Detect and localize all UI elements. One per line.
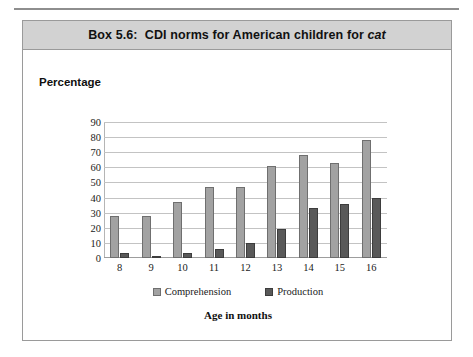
bar-production-15: [340, 204, 349, 258]
y-axis-tick-label: 0: [96, 253, 101, 264]
bar-group: [142, 122, 161, 258]
y-axis-tick-labels: 0102030405060708090: [73, 122, 101, 258]
bar-production-8: [120, 253, 129, 258]
y-axis-tick-label: 50: [91, 177, 102, 188]
bar-comprehension-11: [205, 187, 214, 258]
legend-swatch-icon: [265, 288, 273, 296]
bar-group: [173, 122, 192, 258]
y-axis-tick-label: 40: [91, 192, 102, 203]
x-axis-tick-label: 9: [149, 262, 154, 273]
bar-production-9: [152, 256, 161, 258]
y-axis-title: Percentage: [39, 76, 101, 88]
x-axis-tick-label: 13: [272, 262, 283, 273]
bar-group: [267, 122, 286, 258]
y-axis-tick-label: 90: [91, 117, 102, 128]
bar-production-12: [246, 243, 255, 258]
x-axis-tick-label: 16: [366, 262, 377, 273]
bar-comprehension-14: [299, 155, 308, 258]
chart-legend: ComprehensionProduction: [23, 286, 453, 297]
bar-group: [205, 122, 224, 258]
x-axis-tick-labels: 8910111213141516: [104, 262, 387, 278]
legend-label: Production: [277, 286, 323, 297]
bar-group: [299, 122, 318, 258]
legend-item-comprehension: Comprehension: [153, 286, 232, 297]
legend-swatch-icon: [153, 288, 161, 296]
y-axis-tick-label: 30: [91, 207, 102, 218]
legend-item-production: Production: [265, 286, 323, 297]
bar-comprehension-9: [142, 216, 151, 258]
bar-comprehension-15: [330, 163, 339, 258]
bar-production-11: [215, 249, 224, 258]
y-axis-tick-label: 60: [91, 162, 102, 173]
bar-group: [362, 122, 381, 258]
bar-production-13: [277, 229, 286, 258]
y-axis-tick-label: 80: [91, 132, 102, 143]
chart-container: Percentage 0102030405060708090 891011121…: [23, 21, 453, 342]
bar-production-16: [372, 198, 381, 258]
x-axis-title: Age in months: [23, 309, 453, 321]
bar-production-14: [309, 208, 318, 258]
bar-comprehension-10: [173, 202, 182, 258]
figure-box: Box 5.6: CDI norms for American children…: [22, 20, 452, 341]
bars-layer: [104, 122, 387, 258]
plot-area: [104, 122, 387, 258]
x-axis-tick-label: 12: [240, 262, 251, 273]
bar-production-10: [183, 253, 192, 258]
legend-label: Comprehension: [165, 286, 232, 297]
page-top-rule: [14, 8, 459, 10]
page-root: Box 5.6: CDI norms for American children…: [0, 0, 473, 357]
bar-comprehension-16: [362, 140, 371, 258]
bar-group: [110, 122, 129, 258]
y-axis-tick-label: 20: [91, 222, 102, 233]
y-axis-tick-label: 70: [91, 147, 102, 158]
bar-comprehension-8: [110, 216, 119, 258]
bar-group: [236, 122, 255, 258]
y-axis-tick-label: 10: [91, 237, 102, 248]
x-axis-tick-label: 10: [177, 262, 188, 273]
x-axis-tick-label: 14: [303, 262, 314, 273]
x-axis-tick-label: 8: [117, 262, 122, 273]
x-axis-tick-label: 11: [209, 262, 219, 273]
bar-comprehension-13: [267, 166, 276, 258]
bar-group: [330, 122, 349, 258]
x-axis-tick-label: 15: [335, 262, 346, 273]
bar-comprehension-12: [236, 187, 245, 258]
